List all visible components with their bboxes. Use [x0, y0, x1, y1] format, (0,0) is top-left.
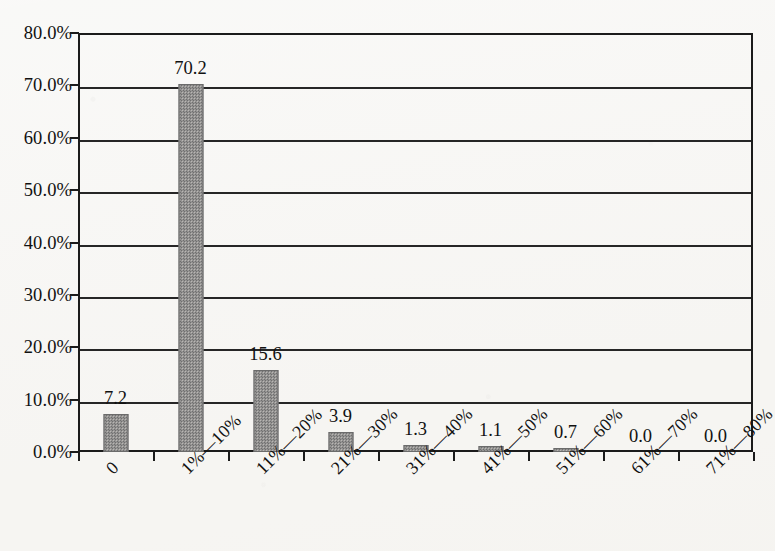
y-axis-tick-label: 0.0%: [33, 442, 72, 463]
gridline: [80, 192, 751, 194]
y-axis-tick-label: 50.0%: [24, 180, 72, 201]
x-axis-tick-label: 0: [102, 457, 123, 478]
gridline: [80, 349, 751, 351]
y-axis-tick-label: 60.0%: [24, 127, 72, 148]
y-axis-tick-label: 80.0%: [24, 23, 72, 44]
gridline: [80, 140, 751, 142]
x-axis-tick-mark: [753, 452, 755, 461]
gridline: [80, 297, 751, 299]
bar-chart: 0.0%10.0%20.0%30.0%40.0%50.0%60.0%70.0%8…: [0, 0, 775, 551]
gridline: [80, 245, 751, 247]
gridline: [80, 402, 751, 404]
x-axis: 01%—10%11%—20%21%—30%31%—40%41%—50%51%—6…: [78, 452, 753, 551]
gridline: [80, 87, 751, 89]
plot-area: [78, 33, 753, 452]
y-axis-tick-label: 70.0%: [24, 75, 72, 96]
y-axis: 0.0%10.0%20.0%30.0%40.0%50.0%60.0%70.0%8…: [0, 33, 72, 452]
y-axis-tick-label: 30.0%: [24, 284, 72, 305]
y-axis-tick-label: 20.0%: [24, 337, 72, 358]
y-axis-tick-label: 40.0%: [24, 232, 72, 253]
y-axis-tick-label: 10.0%: [24, 389, 72, 410]
